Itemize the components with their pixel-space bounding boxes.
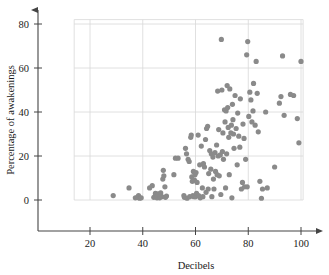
data-point <box>235 162 240 167</box>
data-point <box>164 193 169 198</box>
data-point <box>248 97 253 102</box>
data-point <box>272 164 277 169</box>
data-point <box>245 184 250 189</box>
data-point <box>194 180 199 185</box>
x-axis-title: Decibels <box>178 260 215 271</box>
scatter-plot-svg: 20406080100 020406080 Decibels Percentag… <box>0 0 329 275</box>
data-point <box>298 59 303 64</box>
data-point <box>219 87 224 92</box>
data-point <box>263 109 268 114</box>
data-point <box>295 116 300 121</box>
data-point <box>277 101 282 106</box>
data-point <box>229 123 234 128</box>
x-tick-label: 60 <box>190 238 201 249</box>
data-point <box>259 196 264 201</box>
data-point <box>187 159 192 164</box>
gridlines <box>74 20 303 200</box>
data-point <box>203 137 208 142</box>
data-point <box>162 184 167 189</box>
data-point-group <box>111 37 304 201</box>
y-tick-label: 60 <box>19 63 30 74</box>
data-point <box>223 185 228 190</box>
y-tick-label: 20 <box>19 151 30 162</box>
data-point <box>238 96 243 101</box>
data-point <box>139 195 144 200</box>
data-point <box>220 130 225 135</box>
data-point <box>243 157 248 162</box>
data-point <box>232 93 237 98</box>
data-point <box>150 183 155 188</box>
data-point <box>253 123 258 128</box>
data-point <box>257 179 262 184</box>
data-point <box>161 168 166 173</box>
x-tick-label: 80 <box>243 238 254 249</box>
data-point <box>208 167 213 172</box>
data-point <box>246 114 251 119</box>
axes <box>38 10 316 231</box>
data-point <box>250 108 255 113</box>
y-tick-label: 40 <box>19 107 30 118</box>
data-point <box>235 111 240 116</box>
scatter-plot-figure: 20406080100 020406080 Decibels Percentag… <box>0 0 329 275</box>
data-point <box>227 172 232 177</box>
data-point <box>251 81 256 86</box>
data-point <box>230 102 235 107</box>
data-point <box>161 173 166 178</box>
data-point <box>202 164 207 169</box>
data-point <box>260 186 265 191</box>
data-point <box>245 39 250 44</box>
data-point <box>224 151 229 156</box>
data-point <box>171 172 176 177</box>
data-point <box>254 59 259 64</box>
data-point <box>193 170 198 175</box>
x-tick-label: 40 <box>138 238 149 249</box>
data-point <box>206 186 211 191</box>
data-point <box>229 195 234 200</box>
data-point <box>244 52 249 57</box>
x-tick-label: 100 <box>293 238 309 249</box>
data-point <box>222 119 227 124</box>
data-point <box>237 145 242 150</box>
data-point <box>218 192 223 197</box>
data-point <box>211 177 216 182</box>
data-point <box>247 90 252 95</box>
data-point <box>240 122 245 127</box>
y-axis-title: Percentage of awakenings <box>5 65 16 175</box>
data-point <box>111 193 116 198</box>
data-point <box>291 93 296 98</box>
data-point <box>216 127 221 132</box>
x-tick-label: 20 <box>85 238 96 249</box>
data-point <box>278 94 283 99</box>
data-point <box>219 37 224 42</box>
data-point <box>205 124 210 129</box>
data-point <box>255 91 260 96</box>
data-point <box>256 129 261 134</box>
data-point <box>280 53 285 58</box>
data-point <box>200 194 205 199</box>
data-point <box>282 113 287 118</box>
data-point <box>196 133 201 138</box>
data-point <box>214 142 219 147</box>
data-point <box>234 126 239 131</box>
data-point <box>221 157 226 162</box>
x-axis-tick-labels: 20406080100 <box>85 238 309 249</box>
data-point <box>209 194 214 199</box>
data-point <box>217 173 222 178</box>
data-point <box>199 144 204 149</box>
data-point <box>175 156 180 161</box>
data-point <box>236 134 241 139</box>
data-point <box>184 151 189 156</box>
y-tick-label: 0 <box>24 195 29 206</box>
data-point <box>265 185 270 190</box>
data-point <box>183 146 188 151</box>
data-point <box>296 140 301 145</box>
data-point <box>231 146 236 151</box>
y-tick-label: 80 <box>19 19 30 30</box>
data-point <box>227 86 232 91</box>
data-point <box>230 117 235 122</box>
data-point <box>200 185 205 190</box>
data-point <box>211 186 216 191</box>
data-point <box>231 131 236 136</box>
data-point <box>225 105 230 110</box>
y-axis-tick-labels: 020406080 <box>19 19 30 206</box>
